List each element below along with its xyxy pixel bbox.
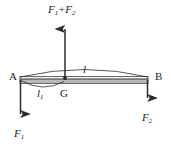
point-g-label: G xyxy=(60,88,68,99)
resultant-base-1: F xyxy=(48,3,55,15)
bar-top-face xyxy=(20,77,148,80)
right-force-subscript: 2 xyxy=(149,117,152,124)
right-force-base: F xyxy=(142,111,149,123)
left-length-subscript: 1 xyxy=(40,93,43,100)
left-force-label: F1 xyxy=(14,128,24,141)
left-force-base: F xyxy=(14,127,21,139)
resultant-subscript-2: 2 xyxy=(72,9,75,16)
resultant-force-label: F1+F2 xyxy=(48,4,76,17)
free-body-diagram-figure: F1+F2 A B G l l1 F1 F2 xyxy=(0,0,171,151)
point-a-label: A xyxy=(9,71,17,82)
point-b-label: B xyxy=(155,71,162,82)
left-force-subscript: 1 xyxy=(21,133,24,140)
rigid-bar xyxy=(20,77,148,84)
bar-body xyxy=(20,79,148,83)
right-force-label: F2 xyxy=(142,112,152,125)
diagram-canvas xyxy=(0,0,171,151)
total-length-label: l xyxy=(83,64,86,75)
left-length-label: l1 xyxy=(37,88,43,101)
